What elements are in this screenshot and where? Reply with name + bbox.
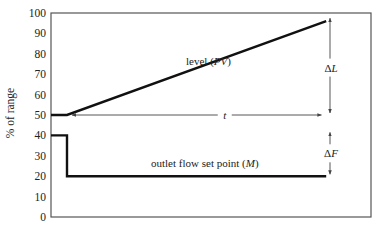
t-label: t xyxy=(223,109,227,121)
y-tick-label: 60 xyxy=(35,89,47,101)
delta-L-label: ΔL xyxy=(324,62,337,74)
level-line xyxy=(51,21,326,115)
y-tick-label: 0 xyxy=(40,211,46,223)
y-tick-label: 50 xyxy=(35,109,47,121)
chart-svg: 0102030405060708090100 % of range tΔLΔF … xyxy=(0,0,390,231)
series-label-level: level (PV) xyxy=(186,55,231,68)
y-tick-label: 40 xyxy=(35,129,47,141)
y-tick-label: 70 xyxy=(35,68,47,80)
y-axis-ticks: 0102030405060708090100 xyxy=(29,7,47,223)
outlet-flow-line xyxy=(51,135,326,176)
y-tick-label: 90 xyxy=(35,27,47,39)
delta-F-label: ΔF xyxy=(324,147,338,159)
y-tick-label: 100 xyxy=(29,7,47,19)
y-tick-label: 10 xyxy=(35,191,47,203)
y-axis-label: % of range xyxy=(4,88,17,138)
data-series xyxy=(51,21,326,176)
annotations: tΔLΔF xyxy=(72,18,338,174)
y-tick-label: 20 xyxy=(35,170,47,182)
y-tick-label: 30 xyxy=(35,150,47,162)
y-tick-label: 80 xyxy=(35,48,47,60)
series-label-outlet-flow: outlet flow set point (M) xyxy=(151,157,259,170)
